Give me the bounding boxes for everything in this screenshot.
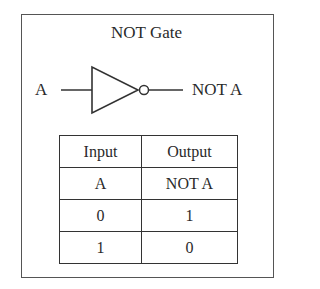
subheader-output: NOT A [142, 168, 238, 200]
truth-table: Input Output A NOT A 0 1 1 0 [59, 135, 238, 264]
cell-output: 1 [142, 200, 238, 232]
buffer-triangle-icon [92, 67, 138, 113]
table-row: 0 1 [60, 200, 238, 232]
table-subheader-row: A NOT A [60, 168, 238, 200]
cell-input: 1 [60, 232, 142, 264]
header-input: Input [60, 136, 142, 168]
inversion-bubble-icon [140, 86, 149, 95]
output-label: NOT A [192, 80, 242, 100]
subheader-input: A [60, 168, 142, 200]
table-header-row: Input Output [60, 136, 238, 168]
table-row: 1 0 [60, 232, 238, 264]
cell-output: 0 [142, 232, 238, 264]
header-output: Output [142, 136, 238, 168]
cell-input: 0 [60, 200, 142, 232]
